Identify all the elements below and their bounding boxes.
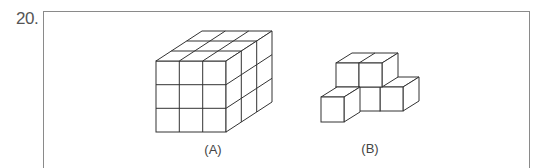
figure-a-label: (A) <box>204 142 221 157</box>
figure-b-blocks <box>321 53 419 122</box>
figures-drawing <box>0 0 536 168</box>
figure-b-label: (B) <box>361 141 378 156</box>
figure-a-cube <box>156 31 272 132</box>
